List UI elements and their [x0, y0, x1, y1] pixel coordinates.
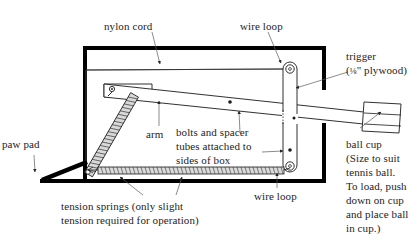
label-paw-pad: paw pad: [2, 138, 40, 151]
label-bolts-line2: tubes attached to: [176, 140, 252, 153]
box-bottom-wall: [40, 179, 326, 183]
trigger-fraction-eighth: ⅛: [350, 66, 357, 76]
label-bolts-line3: sides of box: [176, 154, 230, 167]
label-ball-cup-line1: ball cup: [346, 138, 382, 151]
box-right-wall-lower: [322, 123, 326, 183]
sear-bolt: [293, 117, 296, 120]
label-trigger-line2: (⅛" plywood): [346, 64, 407, 78]
label-tension-springs-line1: tension springs (only slight: [61, 200, 183, 213]
paw-pad-lever[interactable]: [41, 160, 88, 182]
label-wire-loop-bottom: wire loop: [254, 190, 297, 203]
horizontal-tension-spring: [88, 167, 290, 174]
label-tension-springs-line2: tension required for operation): [61, 214, 199, 227]
leader-paw-pad: [34, 155, 35, 172]
spacer-bolt-middle: [228, 100, 232, 104]
pivot-bolt-center: [111, 88, 113, 90]
label-ball-cup-line6: and place ball: [346, 208, 408, 221]
ball-cup-box[interactable]: [362, 102, 401, 133]
trigger-plywood[interactable]: [283, 62, 297, 172]
label-trigger-line1: trigger: [346, 50, 376, 63]
label-ball-cup-line3: tennis ball.: [346, 166, 395, 179]
label-nylon-cord: nylon cord: [104, 20, 152, 33]
throwing-arm[interactable]: [104, 84, 373, 125]
wire-loop-top-inner: [289, 68, 292, 71]
label-ball-cup-line4: To load, push: [346, 180, 407, 193]
label-bolts-line1: bolts and spacer: [176, 126, 248, 139]
diagonal-spring-lower-hook: [86, 170, 90, 174]
label-ball-cup-line7: in cup.): [346, 222, 380, 235]
nylon-cord-horizontal: [86, 69, 286, 70]
diagram-canvas: nylon cord wire loop trigger (⅛" plywood…: [0, 0, 418, 240]
trigger-plywood-text: " plywood): [357, 64, 407, 76]
box-right-wall-upper: [322, 46, 326, 90]
label-ball-cup-line5: down on cup: [346, 194, 404, 207]
spacer-bolt-right: [288, 148, 292, 152]
label-ball-cup-line2: (Size to suit: [346, 152, 400, 165]
box-top-wall: [83, 46, 326, 50]
ball-cup[interactable]: [362, 102, 401, 133]
wire-loop-bottom-inner: [289, 165, 292, 168]
label-arm: arm: [146, 128, 163, 141]
paw-pad-bar[interactable]: [41, 160, 88, 182]
diagonal-tension-spring: [85, 92, 139, 177]
leader-bolts-right: [262, 151, 283, 152]
label-wire-loop-top: wire loop: [240, 20, 283, 33]
arm-body[interactable]: [104, 84, 373, 125]
